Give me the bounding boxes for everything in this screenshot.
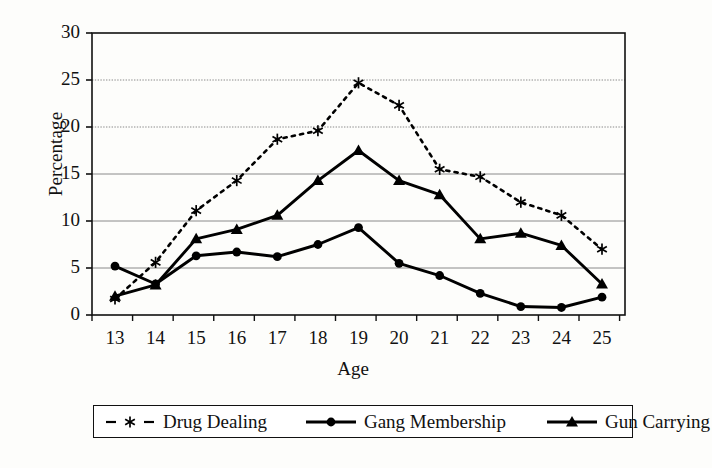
x-tick-label: 13 [93,327,137,349]
chart-legend: Drug DealingGang MembershipGun Carrying [93,405,633,438]
series-gun-carrying [109,145,608,301]
legend-label: Gang Membership [364,411,508,433]
data-point-marker [597,244,607,255]
data-point-marker [327,417,336,426]
x-tick-label: 22 [458,327,502,349]
series-line [115,83,602,299]
data-point-marker [557,210,567,221]
legend-asterisk-icon [104,413,156,431]
data-point-marker [598,293,607,302]
legend-label: Drug Dealing [163,411,269,433]
legend-circle-icon [305,413,357,431]
data-point-marker [394,100,404,111]
legend-item-drug-dealing[interactable]: Drug Dealing [104,411,269,433]
data-point-marker [272,134,282,145]
data-point-marker [273,252,282,261]
data-point-marker [353,145,365,156]
data-point-marker [435,164,445,175]
data-point-marker [111,262,120,271]
data-point-marker [557,303,566,312]
data-point-marker [475,171,485,182]
legend-label: Gun Carrying [605,411,712,433]
x-tick-label: 23 [499,327,543,349]
data-point-marker [395,259,404,268]
series-drug-dealing [110,77,607,304]
x-tick-label: 25 [580,327,624,349]
y-tick-label: 20 [38,115,80,137]
y-tick-label: 0 [38,303,80,325]
data-point-marker [476,289,485,298]
data-point-marker [192,251,201,260]
x-tick-label: 16 [215,327,259,349]
x-tick-label: 24 [539,327,583,349]
x-axis-title: Age [0,358,706,380]
data-point-marker [125,416,135,427]
data-point-marker [516,302,525,311]
y-tick-label: 10 [38,209,80,231]
legend-item-gang-membership[interactable]: Gang Membership [305,411,508,433]
y-tick-label: 5 [38,256,80,278]
y-tick-label: 25 [38,68,80,90]
x-tick-label: 15 [174,327,218,349]
data-point-marker [354,223,363,232]
x-tick-label: 21 [418,327,462,349]
x-tick-label: 17 [255,327,299,349]
y-tick-label: 30 [38,21,80,43]
x-tick-label: 14 [134,327,178,349]
data-point-marker [232,248,241,257]
y-tick-label: 15 [38,162,80,184]
x-tick-label: 20 [377,327,421,349]
data-point-marker [435,271,444,280]
data-point-marker [314,240,323,249]
legend-triangle-icon [546,413,598,431]
x-tick-label: 18 [296,327,340,349]
x-tick-label: 19 [337,327,381,349]
legend-item-gun-carrying[interactable]: Gun Carrying [546,411,712,433]
